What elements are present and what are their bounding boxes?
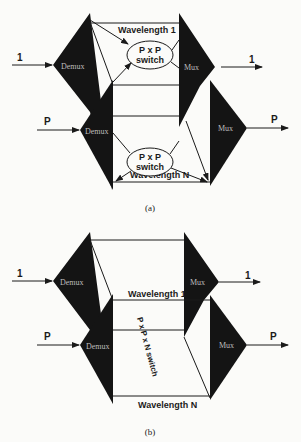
wavelength-1-label: Wavelength 1 [118,25,176,35]
wavelength-1-label: Wavelength 1 [128,289,186,299]
wdm-crossconnect-diagram: 1 P Demux Demux Mux Mux 1 P Wavelength 1… [0,0,301,442]
mux-1-label: Mux [184,63,199,72]
conn-line [170,141,179,154]
output-label-p: P [270,331,277,342]
figure-a: 1 P Demux Demux Mux Mux 1 P Wavelength 1… [12,13,288,213]
conn-line [171,62,179,68]
conn-line [113,133,130,153]
output-label-1: 1 [249,54,255,65]
switch-bottom-line2: switch [136,162,164,172]
conn-line [113,63,131,82]
output-label-1: 1 [245,270,251,281]
input-label-1: 1 [17,52,23,63]
demux-p-label: Demux [86,342,110,351]
conn-line [184,337,210,398]
output-label-p: P [271,114,278,125]
input-label-1: 1 [17,268,23,279]
conn-line [172,40,179,50]
switch-bottom-line1: P x P [139,152,161,162]
input-label-p: P [44,116,51,127]
figure-b: 1 P Demux Demux Mux Mux 1 P Wavelength 1… [12,232,288,437]
mux-p-label: Mux [218,124,233,133]
conn-line [116,171,131,181]
input-label-p: P [44,331,51,342]
mux-p [210,80,247,186]
conn-line [186,121,208,180]
caption-a: (a) [145,203,155,213]
switch-top-line2: switch [136,55,164,65]
mux-1-label: Mux [190,278,205,287]
switch-label: P x P x N switch [135,316,160,377]
switch-top-line1: P x P [139,45,161,55]
wavelength-n-label: Wavelength N [138,400,197,410]
mux-p-label: Mux [219,341,234,350]
demux-1-label: Demux [61,62,85,71]
demux-1-label: Demux [60,278,84,287]
caption-b: (b) [145,427,156,437]
demux-p-label: Demux [85,127,109,136]
